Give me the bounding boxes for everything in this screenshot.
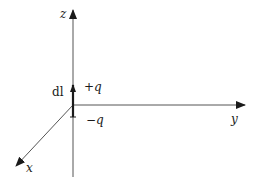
z-axis-label: z [59, 7, 67, 21]
dipole-length-label: dl [52, 85, 64, 99]
negative-charge-label: −q [86, 113, 104, 127]
x-axis [16, 105, 73, 166]
positive-charge-label: +q [84, 80, 102, 94]
dipole-element [70, 85, 76, 117]
dipole-diagram: z y x dl +q −q [0, 0, 255, 187]
x-axis-label: x [26, 161, 33, 175]
x-axis-line [16, 105, 73, 166]
y-axis-label: y [230, 112, 238, 126]
